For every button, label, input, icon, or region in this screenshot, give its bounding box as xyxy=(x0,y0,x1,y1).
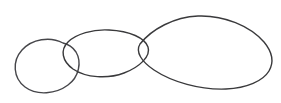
sketch-canvas xyxy=(0,0,281,103)
overlapping-ellipses-diagram xyxy=(0,0,281,103)
